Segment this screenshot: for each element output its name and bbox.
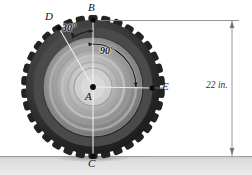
point-label-B: B [88,2,95,13]
angle-label-90: 90° [100,46,114,56]
point-dot-D [56,25,61,30]
dimension-label-22in: 22 in. [206,81,228,91]
point-dot-B [90,17,95,22]
ground-surface [0,154,252,175]
point-label-E: E [162,81,169,92]
point-label-A: A [85,91,92,102]
point-dot-E [149,85,154,90]
angle-label-30: 30° [62,23,76,33]
point-label-D: D [45,11,53,22]
point-label-C: C [88,158,95,169]
